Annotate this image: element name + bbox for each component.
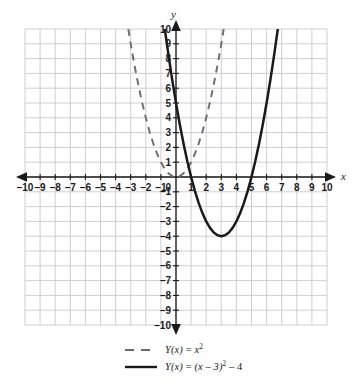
x-tick-label: 7	[279, 182, 285, 193]
x-axis-label: x	[340, 170, 346, 182]
legend-label-solid: Y(x) = (x – 3)2 – 4	[165, 361, 242, 372]
graph-plot-area: –10–9–8–7–6–5–4–3–2–11234567891010987654…	[0, 0, 355, 392]
y-tick-label: –4	[160, 231, 172, 242]
legend-item-solid: Y(x) = (x – 3)2 – 4	[0, 358, 355, 375]
x-tick-label: –4	[110, 182, 122, 193]
x-tick-label: 3	[219, 182, 225, 193]
x-tick-label: 4	[234, 182, 240, 193]
legend-solid-body: (x – 3)	[194, 361, 222, 372]
y-tick-label: –10	[154, 320, 171, 331]
legend-swatch-dashed	[124, 344, 158, 356]
x-tick-label: 2	[203, 182, 209, 193]
x-tick-label: 9	[309, 182, 315, 193]
x-tick-label: –10	[17, 182, 34, 193]
x-tick-label: –3	[125, 182, 137, 193]
y-tick-label: –7	[160, 275, 172, 286]
legend: Y(x) = x2 Y(x) = (x – 3)2 – 4	[0, 341, 355, 375]
x-tick-label: –8	[50, 182, 62, 193]
y-tick-label: –8	[160, 290, 172, 301]
y-tick-label: –5	[160, 246, 172, 257]
legend-solid-suffix: – 4	[226, 361, 242, 372]
y-tick-label: 8	[165, 53, 171, 64]
y-tick-label: 9	[165, 38, 171, 49]
y-tick-label: 5	[165, 98, 171, 109]
legend-label-dashed: Y(x) = x2	[165, 344, 203, 355]
x-tick-label: –5	[95, 182, 107, 193]
legend-dashed-arg: (x)	[171, 344, 183, 355]
y-tick-label: 3	[165, 127, 171, 138]
y-tick-label: –9	[160, 305, 172, 316]
legend-dashed-exponent: 2	[199, 343, 203, 351]
legend-solid-arg: (x)	[171, 361, 183, 372]
y-tick-label: –2	[160, 201, 172, 212]
y-tick-label: 4	[165, 112, 171, 123]
legend-solid-equals: =	[183, 361, 194, 372]
x-tick-label: 5	[249, 182, 255, 193]
y-tick-label: 1	[165, 157, 171, 168]
y-tick-label: 6	[165, 83, 171, 94]
x-tick-label: 6	[264, 182, 270, 193]
y-tick-label: 2	[165, 142, 171, 153]
x-tick-label: 1	[188, 182, 194, 193]
x-tick-label: 10	[321, 182, 333, 193]
coordinate-graph-figure: –10–9–8–7–6–5–4–3–2–11234567891010987654…	[0, 0, 355, 392]
x-tick-label: –7	[65, 182, 77, 193]
y-axis-label: y	[170, 8, 176, 20]
legend-dashed-equals: =	[183, 344, 194, 355]
y-tick-label: 10	[160, 24, 172, 35]
x-tick-label: 8	[294, 182, 300, 193]
x-tick-label: –6	[80, 182, 92, 193]
x-tick-label: –2	[140, 182, 152, 193]
legend-swatch-solid	[124, 361, 158, 373]
x-tick-label: –9	[35, 182, 47, 193]
y-tick-label: 7	[165, 68, 171, 79]
origin-label: 0	[165, 182, 171, 193]
legend-item-dashed: Y(x) = x2	[0, 341, 355, 358]
y-tick-label: –3	[160, 216, 172, 227]
y-tick-label: –6	[160, 260, 172, 271]
